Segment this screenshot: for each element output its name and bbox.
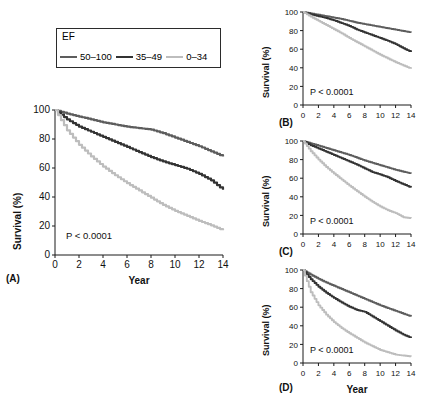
legend-swatch-icon [166, 56, 183, 59]
x-tick-label: 6 [347, 369, 352, 378]
legend: EF 50–100 35–49 0–34 [56, 28, 221, 68]
x-tick-label: 8 [362, 240, 367, 249]
x-tick-label: 14 [407, 111, 416, 120]
x-tick-label: 0 [301, 240, 306, 249]
x-tick-label: 10 [376, 240, 385, 249]
y-tick-label: 80 [289, 156, 298, 165]
legend-item-0-34: 0–34 [166, 52, 207, 62]
panel-d: Survival (%) 02040608010002468101214 P <… [255, 262, 429, 398]
legend-swatch-icon [60, 56, 77, 59]
panel-b-y-axis-label: Survival (%) [261, 46, 271, 98]
x-tick-label: 8 [362, 111, 367, 120]
panel-c-tag: (C) [279, 246, 293, 257]
panel-c-p-value: P < 0.0001 [310, 216, 354, 226]
legend-items: 50–100 35–49 0–34 [60, 50, 220, 64]
x-tick-label: 6 [124, 259, 130, 270]
x-tick-label: 4 [100, 259, 106, 270]
panel-a-x-axis-label: Year [55, 275, 223, 286]
survival-curves-figure: EF 50–100 35–49 0–34 Survival (%) 020406… [0, 0, 429, 398]
y-tick-label: 0 [44, 249, 50, 260]
x-tick-label: 8 [362, 369, 367, 378]
y-tick-label: 40 [289, 322, 298, 331]
panel-a: Survival (%) 02040608010002468101214 P <… [0, 100, 240, 290]
x-tick-label: 12 [391, 240, 400, 249]
x-tick-label: 0 [301, 369, 306, 378]
legend-item-label: 35–49 [136, 52, 162, 62]
x-tick-label: 10 [169, 259, 181, 270]
x-tick-label: 4 [332, 111, 337, 120]
survival-curve-0-34 [303, 12, 411, 69]
panel-b-curves: 02040608010002468101214 [303, 12, 429, 145]
x-tick-label: 4 [332, 240, 337, 249]
panel-a-tag: (A) [6, 273, 20, 284]
x-tick-label: 10 [376, 369, 385, 378]
survival-curve-35-49 [303, 12, 411, 52]
y-tick-label: 100 [33, 104, 50, 115]
y-tick-label: 100 [285, 8, 299, 17]
survival-curve-35-49 [303, 141, 411, 188]
x-tick-label: 2 [316, 369, 321, 378]
y-tick-label: 60 [39, 162, 51, 173]
panel-a-y-axis-label: Survival (%) [12, 193, 23, 250]
y-tick-label: 0 [294, 230, 299, 239]
x-tick-label: 6 [347, 240, 352, 249]
y-tick-label: 80 [289, 285, 298, 294]
x-tick-label: 12 [193, 259, 205, 270]
panel-c: Survival (%) 02040608010002468101214 P <… [255, 133, 429, 261]
x-tick-label: 10 [376, 111, 385, 120]
y-tick-label: 0 [294, 359, 299, 368]
legend-item-50-100: 50–100 [60, 52, 112, 62]
y-tick-label: 60 [289, 303, 298, 312]
y-tick-label: 20 [289, 341, 298, 350]
x-tick-label: 8 [148, 259, 154, 270]
x-tick-label: 14 [217, 259, 229, 270]
y-tick-label: 60 [289, 45, 298, 54]
x-tick-label: 14 [407, 369, 416, 378]
x-tick-label: 6 [347, 111, 352, 120]
survival-curve-35-49 [55, 110, 223, 190]
legend-item-label: 0–34 [186, 52, 207, 62]
panel-d-p-value: P < 0.0001 [310, 345, 354, 355]
x-tick-label: 2 [76, 259, 82, 270]
y-tick-label: 100 [285, 137, 299, 146]
y-tick-label: 60 [289, 174, 298, 183]
panel-c-curves: 02040608010002468101214 [303, 141, 429, 274]
y-tick-label: 40 [289, 193, 298, 202]
panel-b-p-value: P < 0.0001 [310, 87, 354, 97]
x-tick-label: 4 [332, 369, 337, 378]
x-tick-label: 14 [407, 240, 416, 249]
y-tick-label: 80 [289, 27, 298, 36]
y-tick-label: 20 [289, 212, 298, 221]
x-tick-label: 2 [316, 240, 321, 249]
y-tick-label: 40 [289, 64, 298, 73]
x-tick-label: 0 [301, 111, 306, 120]
legend-item-label: 50–100 [80, 52, 112, 62]
legend-swatch-icon [116, 56, 133, 59]
panel-d-y-axis-label: Survival (%) [261, 304, 271, 356]
y-tick-label: 80 [39, 133, 51, 144]
panel-b-tag: (B) [279, 117, 293, 128]
survival-curve-0-34 [303, 270, 411, 356]
panel-c-y-axis-label: Survival (%) [261, 175, 271, 227]
x-tick-label: 2 [316, 111, 321, 120]
page-bottom-fragment [0, 388, 429, 396]
panel-d-curves: 02040608010002468101214 [303, 270, 429, 398]
y-tick-label: 20 [289, 83, 298, 92]
y-tick-label: 0 [294, 101, 299, 110]
y-tick-label: 40 [39, 191, 51, 202]
y-tick-label: 100 [285, 266, 299, 275]
x-tick-label: 12 [391, 111, 400, 120]
panel-a-p-value: P < 0.0001 [66, 231, 112, 241]
x-tick-label: 0 [52, 259, 58, 270]
x-tick-label: 12 [391, 369, 400, 378]
panel-a-curves: 02040608010002468101214 [55, 110, 263, 295]
legend-item-35-49: 35–49 [116, 52, 162, 62]
panel-b: Survival (%) 02040608010002468101214 P <… [255, 4, 429, 132]
y-tick-label: 20 [39, 220, 51, 231]
legend-title: EF [62, 31, 75, 42]
survival-curve-50-100 [55, 110, 223, 156]
